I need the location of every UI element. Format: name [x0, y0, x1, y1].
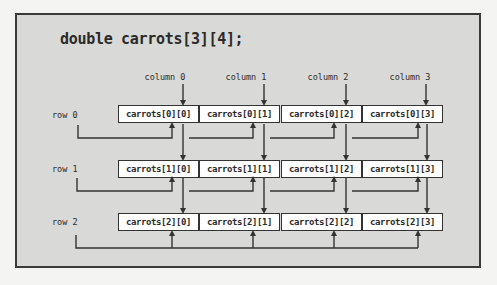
connector-lines — [0, 0, 497, 285]
